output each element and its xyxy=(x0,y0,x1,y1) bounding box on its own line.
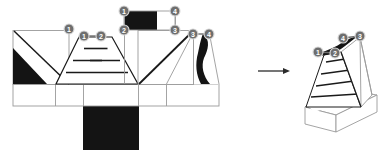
solid-node-2[interactable]: 2 xyxy=(330,48,340,58)
base-underside-square xyxy=(83,106,139,150)
right-arrow-icon xyxy=(258,68,290,74)
net-node-4b[interactable]: 4 xyxy=(204,29,214,39)
net-node-2a[interactable]: 2 xyxy=(96,31,106,41)
base-strip xyxy=(13,85,219,107)
net-node-3a[interactable]: 3 xyxy=(170,25,180,35)
right-square-face xyxy=(124,11,194,85)
net-node-4a[interactable]: 4 xyxy=(170,6,180,16)
solid-node-3[interactable]: 3 xyxy=(355,31,365,41)
flat-net-panel: 1 1 2 1 4 2 xyxy=(13,6,219,150)
folding-diagram-svg: 1 1 2 1 4 2 xyxy=(0,0,382,152)
net-node-1c[interactable]: 1 xyxy=(119,6,129,16)
net-node-2b[interactable]: 2 xyxy=(119,25,129,35)
folded-solid-panel: 1 2 4 3 xyxy=(305,31,377,132)
top-black-tab xyxy=(124,11,157,30)
net-node-1a[interactable]: 1 xyxy=(64,24,74,34)
diagram-canvas: 1 1 2 1 4 2 xyxy=(0,0,382,152)
